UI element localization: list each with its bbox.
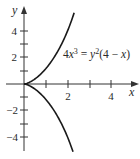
x-tick-label-2: 2 — [65, 90, 71, 102]
y-tick-label-neg2: −2 — [6, 104, 18, 116]
y-axis-label: y — [11, 3, 18, 17]
y-tick-label-2: 2 — [12, 51, 18, 63]
cissoid-plot: 2 4 4 2 −2 −4 x y 4x3 = y2(4 − x) — [0, 0, 140, 159]
y-tick-label-4: 4 — [12, 25, 18, 37]
axes — [6, 12, 134, 151]
x-tick-label-4: 4 — [108, 90, 114, 102]
equation-label: 4x3 = y2(4 − x) — [63, 47, 130, 61]
x-axis-label: x — [128, 85, 135, 99]
y-tick-label-neg4: −4 — [6, 131, 18, 143]
y-axis-arrow-icon — [21, 6, 27, 14]
